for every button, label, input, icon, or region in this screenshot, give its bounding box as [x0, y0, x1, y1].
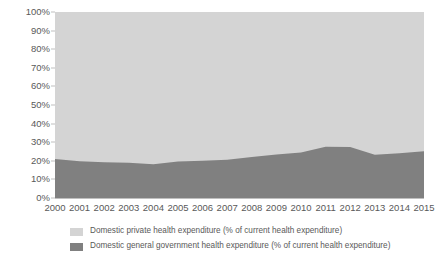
y-axis-tick-label: 20%	[4, 156, 50, 166]
x-axis-tick-label: 2013	[364, 201, 385, 215]
legend-swatch-private	[70, 228, 83, 236]
x-axis-tick-label: 2001	[69, 201, 90, 215]
x-axis-line	[55, 198, 424, 199]
plot-wrapper: 0%10%20%30%40%50%60%70%80%90%100% 200020…	[0, 0, 437, 220]
x-axis-tick-label: 2009	[266, 201, 287, 215]
chart-legend: Domestic private health expenditure (% o…	[0, 224, 437, 254]
y-axis-tick-label: 30%	[4, 137, 50, 147]
x-axis-tick-label: 2010	[290, 201, 311, 215]
area-private	[55, 12, 424, 164]
x-axis-tick-label: 2002	[94, 201, 115, 215]
y-axis-tick-label: 40%	[4, 119, 50, 129]
x-axis-tick-label: 2003	[118, 201, 139, 215]
legend-swatch-government	[70, 243, 83, 251]
x-axis-tick-label: 2000	[44, 201, 65, 215]
x-axis-tick-label: 2004	[143, 201, 164, 215]
y-axis-tick-label: 100%	[4, 7, 50, 17]
y-axis-tick-label: 50%	[4, 100, 50, 110]
x-axis-tick-label: 2014	[389, 201, 410, 215]
x-axis-tick-label: 2006	[192, 201, 213, 215]
legend-item-private[interactable]: Domestic private health expenditure (% o…	[0, 224, 437, 239]
x-axis-tick-label: 2008	[241, 201, 262, 215]
plot-area	[55, 12, 424, 198]
y-axis-tick-label: 70%	[4, 63, 50, 73]
x-axis-tick-label: 2007	[217, 201, 238, 215]
y-axis-tick-label: 10%	[4, 175, 50, 185]
area-series-svg	[55, 12, 424, 198]
legend-item-government[interactable]: Domestic general government health expen…	[0, 239, 437, 254]
y-axis-tick-label: 90%	[4, 26, 50, 36]
x-axis-tick-label: 2015	[413, 201, 434, 215]
y-axis-tick-label: 60%	[4, 82, 50, 92]
x-axis-tick-label: 2012	[340, 201, 361, 215]
y-axis: 0%10%20%30%40%50%60%70%80%90%100%	[0, 0, 50, 220]
x-axis: 2000200120022003200420052006200720082009…	[55, 201, 424, 217]
legend-label-government: Domestic general government health expen…	[90, 242, 390, 250]
legend-label-private: Domestic private health expenditure (% o…	[90, 227, 342, 235]
x-axis-tick-label: 2005	[167, 201, 188, 215]
y-axis-tick-label: 0%	[4, 193, 50, 203]
y-axis-tick-label: 80%	[4, 44, 50, 54]
x-axis-tick-label: 2011	[315, 201, 335, 215]
stacked-area-chart: 0%10%20%30%40%50%60%70%80%90%100% 200020…	[0, 0, 437, 269]
